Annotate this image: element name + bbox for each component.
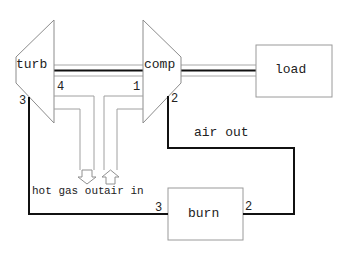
turbine-label: turb <box>16 58 47 71</box>
shaft-comp-load <box>181 65 256 76</box>
load-label: load <box>275 63 306 76</box>
air-in-arrow-icon <box>102 170 119 184</box>
shaft-turb-comp <box>54 65 143 76</box>
hot-gas-pipe <box>54 96 94 170</box>
diagram-graphics <box>0 0 352 262</box>
hot-gas-out-label: hot gas out <box>32 186 105 197</box>
port-compressor-1: 1 <box>133 81 140 93</box>
air-in-pipe <box>104 96 143 170</box>
port-turbine-3: 3 <box>19 95 26 107</box>
port-burner-2: 2 <box>245 201 252 213</box>
port-burner-3: 3 <box>155 202 162 214</box>
port-turbine-4: 4 <box>57 81 64 93</box>
burner-label: burn <box>188 207 219 220</box>
compressor-label: comp <box>144 58 175 71</box>
air-in-label: air in <box>104 186 144 197</box>
hot-gas-out-arrow-icon <box>78 170 96 184</box>
gas-turbine-diagram: turb comp load burn 3 4 1 2 3 2 hot gas … <box>0 0 352 262</box>
port-compressor-2: 2 <box>171 93 178 105</box>
air-out-label: air out <box>194 126 249 139</box>
